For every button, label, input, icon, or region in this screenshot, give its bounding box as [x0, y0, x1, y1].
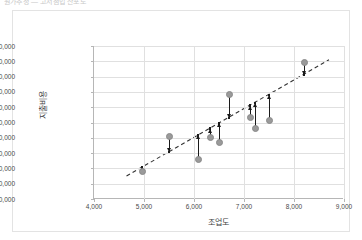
- y-axis-tick: [91, 153, 94, 154]
- fitted-value-marker: [218, 122, 221, 125]
- y-axis-tick-label: 600,000: [0, 196, 15, 203]
- y-axis-tick-label: 1,100,000: [0, 43, 15, 50]
- x-axis-tick-label: 7,000: [222, 203, 266, 210]
- page-caption: 원가추정 — 고저점법 산포도: [4, 0, 124, 5]
- chart-screenshot: 원가추정 — 고저점법 산포도 4,0005,0006,0007,0008,00…: [0, 0, 362, 240]
- chart-frame: 4,0005,0006,0007,0008,0009,000 조업도 지출비용 …: [12, 10, 350, 232]
- y-axis-title: 지출비용: [37, 70, 48, 140]
- scatter-point: [195, 156, 202, 163]
- scatter-point: [216, 139, 223, 146]
- x-axis-tick: [94, 199, 95, 202]
- x-axis-tick: [244, 199, 245, 202]
- y-gridline: [94, 107, 344, 108]
- x-axis-tick-label: 9,000: [322, 203, 362, 210]
- y-gridline: [94, 153, 344, 154]
- fitted-value-marker: [254, 102, 257, 105]
- x-gridline: [344, 46, 345, 199]
- y-axis-tick-label: 950,000: [0, 88, 15, 95]
- y-axis-tick: [91, 46, 94, 47]
- y-gridline: [94, 92, 344, 93]
- x-axis-tick: [344, 199, 345, 202]
- x-axis-title: 조업도: [93, 216, 343, 227]
- x-axis-tick-label: 4,000: [72, 203, 116, 210]
- x-gridline: [144, 46, 145, 199]
- fitted-value-marker: [168, 151, 171, 154]
- y-axis-tick: [91, 138, 94, 139]
- y-gridline: [94, 168, 344, 169]
- scatter-point: [226, 91, 233, 98]
- y-axis-tick-label: 1,050,000: [0, 58, 15, 65]
- x-axis-tick: [144, 199, 145, 202]
- plot-area: 4,0005,0006,0007,0008,0009,000: [93, 46, 343, 199]
- fitted-value-marker: [197, 134, 200, 137]
- y-axis-tick: [91, 107, 94, 108]
- scatter-point: [301, 59, 308, 66]
- fitted-value-marker: [249, 104, 252, 107]
- scatter-point: [207, 134, 214, 141]
- fitted-value-marker: [228, 117, 231, 120]
- x-axis-tick-label: 8,000: [272, 203, 316, 210]
- x-gridline: [194, 46, 195, 199]
- scatter-point: [139, 168, 146, 175]
- x-gridline: [244, 46, 245, 199]
- y-axis-tick: [91, 61, 94, 62]
- x-axis-tick: [194, 199, 195, 202]
- y-axis-tick-label: 850,000: [0, 119, 15, 126]
- y-axis-tick: [91, 123, 94, 124]
- fitted-value-marker: [303, 73, 306, 76]
- y-gridline: [94, 77, 344, 78]
- y-axis-tick: [91, 168, 94, 169]
- y-axis-tick-label: 750,000: [0, 150, 15, 157]
- fitted-value-marker: [268, 94, 271, 97]
- y-axis-tick: [91, 184, 94, 185]
- y-gridline: [94, 184, 344, 185]
- y-axis-tick-label: 700,000: [0, 165, 15, 172]
- x-gridline: [294, 46, 295, 199]
- y-axis-tick-label: 900,000: [0, 104, 15, 111]
- fitted-value-marker: [209, 127, 212, 130]
- y-gridline: [94, 46, 344, 47]
- y-axis-tick: [91, 77, 94, 78]
- x-axis-tick-label: 6,000: [172, 203, 216, 210]
- x-axis-tick: [294, 199, 295, 202]
- scatter-point: [166, 133, 173, 140]
- y-axis-tick-label: 1,000,000: [0, 73, 15, 80]
- y-axis-tick: [91, 92, 94, 93]
- y-axis-tick-label: 650,000: [0, 180, 15, 187]
- scatter-point: [247, 114, 254, 121]
- scatter-point: [252, 125, 259, 132]
- x-axis-tick-label: 5,000: [122, 203, 166, 210]
- y-axis-tick-label: 800,000: [0, 134, 15, 141]
